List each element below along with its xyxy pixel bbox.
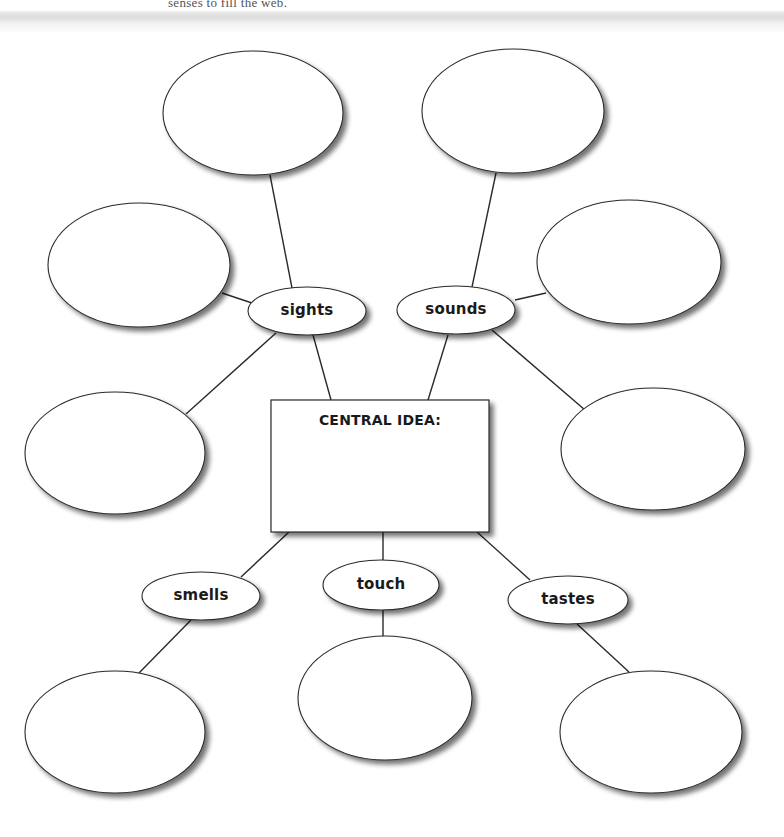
detail-bubble-tastes-8[interactable]	[560, 671, 742, 793]
central-idea-rect[interactable]	[271, 400, 489, 532]
connector-line-sounds-central	[428, 335, 448, 400]
detail-bubble-sights-0[interactable]	[163, 51, 343, 175]
category-oval-touch	[323, 560, 439, 610]
connector-line-sights-top	[270, 175, 292, 288]
connector-line-smells-bottom	[139, 620, 191, 673]
connector-line-sounds-top	[472, 173, 496, 287]
category-oval-smells	[142, 572, 260, 620]
connector-line-central-smells	[241, 532, 289, 577]
connector-line-sounds-lower	[492, 330, 585, 410]
detail-bubble-sounds-3[interactable]	[422, 49, 604, 173]
detail-bubble-sounds-5[interactable]	[561, 388, 745, 510]
central-idea-box	[271, 400, 489, 532]
category-oval-sights	[248, 287, 366, 335]
connector-line-tastes-bottom	[577, 624, 629, 672]
connector-line-sights-left	[222, 293, 252, 303]
sensory-web-diagram	[0, 0, 784, 837]
detail-bubble-sights-1[interactable]	[48, 203, 230, 327]
connector-line-sights-lower	[186, 333, 276, 414]
detail-bubble-touch-7[interactable]	[298, 636, 472, 760]
detail-bubble-smells-6[interactable]	[25, 671, 205, 793]
connector-line-sights-central	[313, 335, 331, 400]
category-oval-sounds	[397, 286, 515, 334]
detail-bubble-sounds-4[interactable]	[537, 200, 721, 324]
category-oval-tastes	[508, 576, 628, 624]
connector-line-sounds-right	[515, 293, 546, 300]
detail-bubble-sights-2[interactable]	[25, 392, 205, 514]
connector-line-central-tastes	[477, 532, 530, 580]
